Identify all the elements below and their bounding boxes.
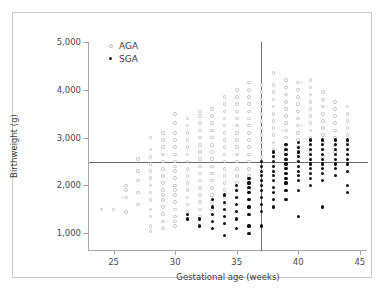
data-point-aga (260, 133, 264, 137)
data-point-aga (284, 114, 288, 118)
data-point-aga (161, 188, 165, 192)
data-point-aga (223, 131, 227, 135)
data-point-sga (346, 158, 349, 161)
data-point-sga (284, 162, 287, 165)
data-point-aga (173, 145, 177, 149)
x-tick-label: 35 (231, 257, 242, 267)
y-axis-line (88, 42, 89, 251)
data-point-aga (210, 165, 214, 169)
data-point-aga (235, 95, 239, 99)
data-point-aga (223, 102, 227, 106)
x-tick (360, 250, 361, 255)
data-point-sga (260, 189, 263, 192)
data-point-sga (284, 177, 287, 180)
data-point-aga (136, 169, 140, 173)
data-point-sga (297, 170, 300, 173)
data-point-sga (334, 158, 337, 161)
data-point-aga (296, 131, 300, 135)
data-point-sga (297, 215, 300, 218)
data-point-aga (173, 112, 177, 116)
data-point-aga (161, 131, 165, 135)
data-point-aga (284, 78, 288, 82)
data-point-aga (235, 160, 239, 164)
data-point-aga (173, 153, 177, 157)
legend-label-aga: AGA (119, 41, 138, 51)
data-point-aga (284, 121, 288, 125)
y-tick-label: 2,000 (57, 180, 81, 190)
data-point-aga (223, 174, 227, 178)
data-point-aga (161, 212, 165, 216)
data-point-sga (297, 141, 300, 144)
sga-marker-icon (106, 57, 115, 60)
data-point-sga (247, 191, 250, 194)
y-axis-title: Birthweight (g) (9, 114, 19, 178)
data-point-sga (297, 160, 300, 163)
legend-item-aga: AGA (106, 39, 138, 52)
data-point-aga (173, 131, 177, 135)
data-point-sga (284, 158, 287, 161)
data-point-aga (173, 208, 177, 212)
data-point-aga (161, 174, 165, 178)
data-point-sga (284, 148, 287, 151)
data-point-aga (309, 100, 313, 104)
data-point-sga (247, 224, 250, 227)
x-tick (175, 250, 176, 255)
data-point-aga (173, 138, 177, 142)
data-point-aga (210, 129, 214, 133)
data-point-aga (346, 119, 350, 123)
data-point-sga (247, 181, 250, 184)
data-point-sga (260, 196, 263, 199)
data-point-sga (309, 177, 312, 180)
data-point-sga (297, 146, 300, 149)
data-point-aga (210, 186, 214, 190)
data-point-aga (198, 157, 202, 161)
x-tick (237, 250, 238, 255)
data-point-sga (284, 172, 287, 175)
data-point-aga (186, 138, 190, 142)
data-point-aga (284, 100, 288, 104)
data-point-aga (210, 107, 214, 111)
data-point-aga (198, 193, 202, 197)
data-point-aga (321, 90, 325, 94)
data-point-sga (309, 158, 312, 161)
data-point-aga (333, 107, 337, 111)
data-point-sga (284, 167, 287, 170)
x-axis-title: Gestational age (weeks) (176, 272, 279, 282)
data-point-sga (346, 153, 349, 156)
data-point-aga (136, 157, 140, 161)
data-point-aga (333, 114, 337, 118)
data-point-aga (161, 181, 165, 185)
data-point-sga (272, 170, 275, 173)
data-point-aga (235, 174, 239, 178)
data-point-sga (309, 138, 312, 141)
data-point-aga (223, 181, 227, 185)
data-point-sga (297, 189, 300, 192)
data-point-sga (334, 138, 337, 141)
data-point-aga (149, 198, 153, 202)
y-tick (83, 233, 88, 234)
data-point-aga (173, 220, 177, 224)
data-point-aga (210, 193, 214, 197)
data-point-sga (346, 162, 349, 165)
y-tick (83, 185, 88, 186)
data-point-aga (346, 112, 350, 116)
y-tick (83, 138, 88, 139)
data-point-aga (198, 129, 202, 133)
data-point-aga (296, 110, 300, 114)
data-point-sga (198, 217, 201, 220)
data-point-aga (247, 167, 251, 171)
data-point-sga (260, 165, 263, 168)
x-tick-label: 25 (108, 257, 119, 267)
data-point-aga (149, 155, 153, 159)
data-point-aga (247, 145, 251, 149)
x-tick (298, 250, 299, 255)
data-point-aga (321, 119, 325, 123)
data-point-aga (198, 150, 202, 154)
data-point-sga (260, 170, 263, 173)
data-point-sga (334, 162, 337, 165)
data-point-sga (260, 160, 263, 163)
data-point-aga (173, 224, 177, 228)
aga-marker-icon (106, 44, 115, 48)
data-point-aga (321, 126, 325, 130)
data-point-aga (247, 110, 251, 114)
